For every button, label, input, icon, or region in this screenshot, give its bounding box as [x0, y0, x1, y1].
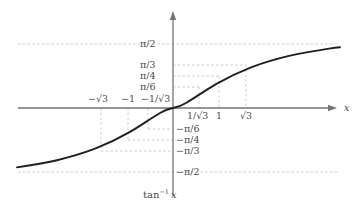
ytick-label-neg-pi-over-4: −π/4: [176, 135, 199, 145]
xtick-label-neg-one-over-sqrt3: −1/√3: [141, 94, 170, 104]
ytick-label-neg-pi-over-3: −π/3: [176, 146, 199, 156]
ytick-label-neg-pi-over-6: −π/6: [176, 124, 199, 134]
graph-canvas: [0, 0, 357, 212]
ytick-label-pi-over-2: π/2: [140, 39, 156, 49]
caption-variable: x: [171, 189, 177, 200]
ytick-label-pi-over-6: π/6: [140, 82, 156, 92]
caption-exponent: −1: [159, 188, 169, 196]
ytick-label-neg-pi-over-2: −π/2: [176, 167, 199, 177]
figure-caption: tan−1x: [143, 189, 177, 200]
xtick-label-one: 1: [216, 111, 222, 121]
ytick-label-pi-over-3: π/3: [140, 60, 156, 70]
xtick-label-sqrt3: √3: [240, 111, 252, 121]
ytick-label-pi-over-4: π/4: [140, 71, 156, 81]
x-axis-arrowhead: [328, 105, 337, 111]
y-axis-arrowhead: [170, 11, 176, 20]
xtick-label-neg-sqrt3: −√3: [88, 94, 108, 104]
xtick-label-neg-one: −1: [121, 94, 135, 104]
xtick-label-one-over-sqrt3: 1/√3: [187, 111, 208, 121]
arctan-graph-figure: π/2 π/3 π/4 π/6 −π/6 −π/4 −π/3 −π/2 −√3 …: [0, 0, 357, 212]
caption-tan-text: tan: [143, 189, 159, 200]
x-axis-label: x: [344, 103, 349, 113]
